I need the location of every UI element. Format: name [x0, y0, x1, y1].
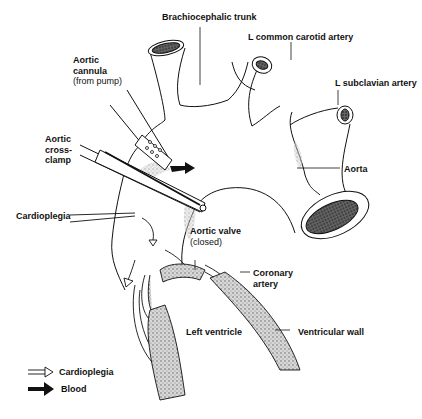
legend-label-blood: Blood — [61, 384, 87, 395]
label-aorta: Aorta — [344, 164, 368, 175]
label-cardioplegia: Cardioplegia — [16, 211, 71, 222]
label-aortic-cannula: Aortic cannula (from pump) — [73, 55, 122, 87]
legend-label-cardioplegia: Cardioplegia — [59, 367, 114, 378]
label-brachiocephalic-trunk: Brachiocephalic trunk — [162, 12, 257, 23]
heart-aorta-illustration — [0, 0, 422, 419]
label-left-ventricle: Left ventricle — [186, 327, 242, 338]
label-l-subclavian-artery: L subclavian artery — [335, 78, 417, 89]
label-ventricular-wall: Ventricular wall — [298, 327, 364, 338]
label-aortic-cross-clamp: Aortic cross- clamp — [45, 134, 72, 166]
label-l-common-carotid-artery: L common carotid artery — [248, 32, 353, 43]
legend-blood-icon — [28, 382, 54, 396]
legend-cardioplegia-icon — [28, 367, 53, 377]
label-coronary-artery: Coronary artery — [253, 268, 293, 289]
aortic-cross-clamp — [80, 145, 206, 212]
cardioplegia-needle — [70, 213, 135, 222]
blood-flow-arrow — [170, 162, 195, 174]
label-aortic-valve: Aortic valve (closed) — [190, 226, 241, 247]
